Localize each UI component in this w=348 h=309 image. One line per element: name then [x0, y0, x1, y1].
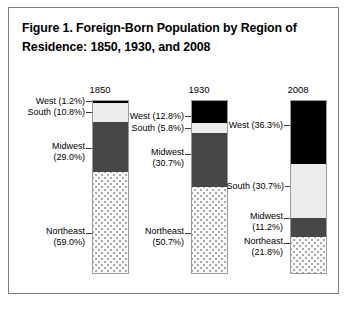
callout-midwest-value-2008: (11.2%) [207, 222, 283, 234]
leader-south-2008 [285, 186, 290, 187]
segment-midwest-1930 [192, 133, 227, 186]
callout-northeast-name-1930: Northeast [108, 226, 184, 238]
segment-west-2008 [291, 101, 326, 164]
leader-northeast-1930 [185, 233, 191, 234]
callout-midwest-name-1930: Midwest [108, 147, 184, 159]
leader-south-1850 [86, 112, 92, 113]
callout-northeast-value-2008: (21.8%) [207, 247, 283, 259]
year-label-1930: 1930 [169, 84, 229, 95]
segment-midwest-2008 [291, 218, 326, 237]
callout-midwest-name-2008: Midwest [207, 211, 283, 223]
leader-south-1930 [185, 128, 191, 129]
callout-northeast-name-2008: Northeast [207, 236, 283, 248]
figure-frame: Figure 1. Foreign-Born Population by Reg… [8, 7, 339, 294]
leader-northeast-1850 [86, 233, 92, 234]
callout-south-1850: South (10.8%) [9, 107, 85, 119]
leader-midwest-1850 [86, 148, 92, 149]
leader-midwest-2008 [284, 218, 290, 219]
leader-west-2008 [284, 125, 290, 126]
segment-south-2008 [291, 164, 326, 217]
figure-title: Figure 1. Foreign-Born Population by Reg… [22, 19, 322, 57]
leader-northeast-2008 [284, 243, 290, 244]
callout-northeast-name-1850: Northeast [9, 226, 85, 238]
callout-midwest-value-1930: (30.7%) [108, 158, 184, 170]
callout-northeast-value-1850: (59.0%) [9, 237, 85, 249]
stacked-bar-2008 [290, 100, 327, 274]
leader-west-1850 [86, 101, 92, 102]
callout-west-1850: West (1.2%) [9, 96, 85, 108]
leader-midwest-1930 [185, 154, 191, 155]
callout-northeast-value-1930: (50.7%) [108, 237, 184, 249]
year-label-2008: 2008 [268, 84, 328, 95]
segment-northeast-2008 [291, 237, 326, 274]
segment-northeast-1850 [93, 172, 128, 274]
callout-west-2008: West (36.3%) [207, 120, 283, 132]
year-label-1850: 1850 [70, 84, 130, 95]
leader-west-1930 [185, 116, 191, 117]
callout-south-2008: South (30.7%) [207, 181, 284, 193]
callout-west-1930: West (12.8%) [108, 111, 184, 123]
callout-midwest-value-1850: (29.0%) [9, 152, 85, 164]
callout-midwest-name-1850: Midwest [9, 141, 85, 153]
callout-south-1930: South (5.8%) [108, 123, 184, 135]
